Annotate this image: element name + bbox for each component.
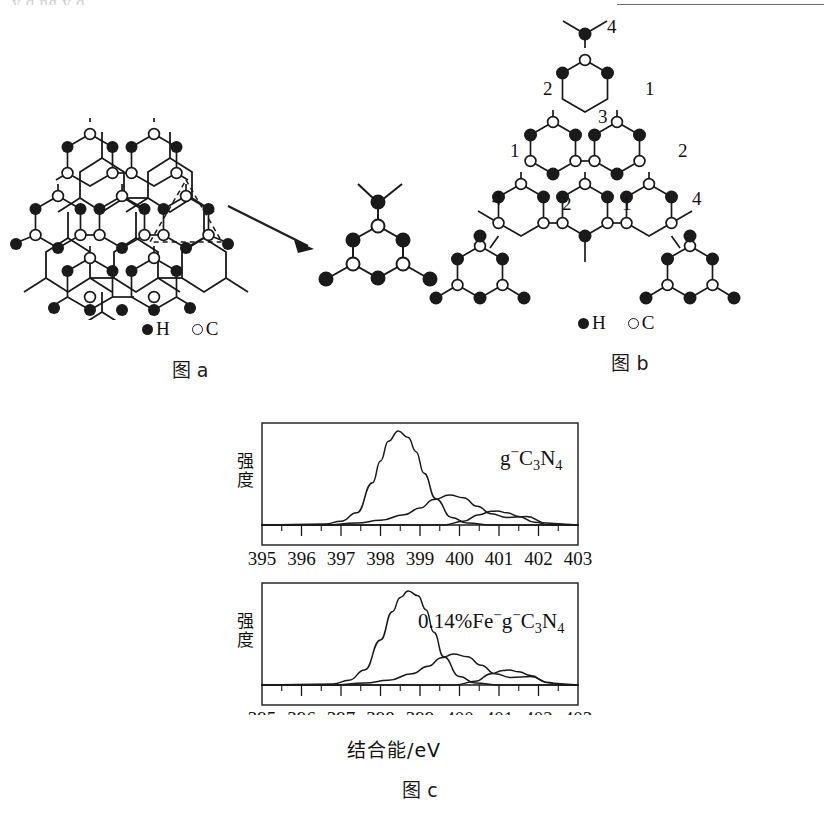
open-circle-icon [628,318,639,329]
legend-label-c: C [206,318,219,339]
svg-text:402: 402 [524,708,553,715]
legend-label-c: C [642,312,655,333]
figure-b-legend: HC [578,312,676,334]
legend-label-h: H [592,312,606,333]
svg-text:401: 401 [485,708,514,715]
svg-text:397: 397 [327,708,356,715]
lattice-bonds [18,118,226,310]
series-label-top: g−C3N4 [500,444,563,474]
svg-text:396: 396 [287,708,316,715]
y-axis-label-top: 强度 [232,452,257,490]
legend-label-h: H [156,318,170,339]
site-number-3-center: 3 [598,106,608,128]
figure-b-caption: 图 b [570,348,690,375]
site-number-4-top: 4 [607,16,617,38]
figure-b-lattice [420,16,750,316]
site-number-2-right: 2 [678,140,688,162]
carbon-atoms [30,129,214,303]
site-number-4-right: 4 [692,188,702,210]
hydrogen-atoms [10,118,234,316]
svg-text:398: 398 [366,548,395,569]
site-number-1-upright: 1 [645,78,655,100]
svg-text:397: 397 [327,548,356,569]
svg-text:403: 403 [564,548,593,569]
figure-a-legend: HC [142,318,240,340]
svg-text:395: 395 [248,708,277,715]
top-horizontal-rule [617,4,824,5]
open-circle-icon [192,324,203,335]
filled-circle-icon [142,324,153,335]
svg-text:398: 398 [366,708,395,715]
svg-text:400: 400 [445,708,474,715]
filled-circle-icon [578,318,589,329]
site-number-2-bottom: 2 [562,193,572,215]
site-number-1-bottom: 1 [622,193,632,215]
svg-text:395: 395 [248,548,277,569]
site-number-1-left: 1 [510,140,520,162]
svg-text:401: 401 [485,548,514,569]
series-label-bottom: 0.14%Fe−g−C3N4 [418,607,564,637]
site-number-4-left: 4 [492,188,502,210]
svg-text:396: 396 [287,548,316,569]
top-partial-text: y q ng y q [12,0,712,5]
figure-c-caption: 图 c [360,775,480,802]
y-axis-label-bottom: 强度 [232,612,257,650]
x-axis-title: 结合能/eV [347,735,441,762]
figure-page: y q ng y q [0,0,828,819]
svg-text:399: 399 [406,548,435,569]
svg-text:400: 400 [445,548,474,569]
svg-text:399: 399 [406,708,435,715]
figure-b-hydrogens [430,28,741,305]
site-number-2-upleft: 2 [543,78,553,100]
svg-text:402: 402 [524,548,553,569]
svg-text:403: 403 [564,708,593,715]
figure-a-caption: 图 a [130,355,250,382]
